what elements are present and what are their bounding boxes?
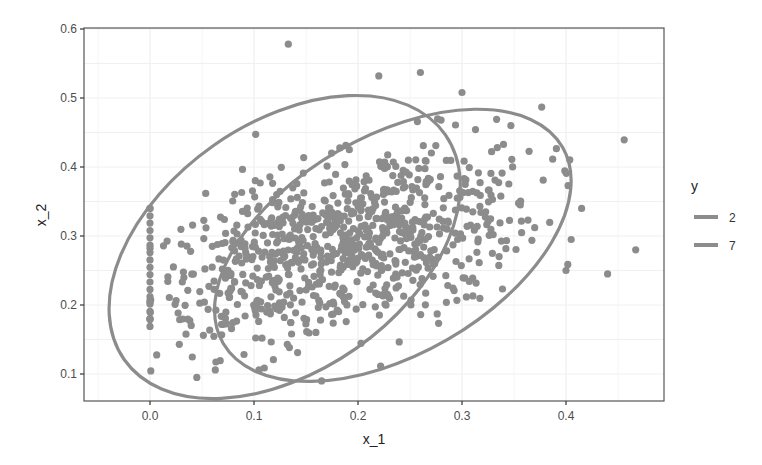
data-point [146, 271, 153, 278]
data-point [266, 173, 273, 180]
data-point [416, 189, 423, 196]
data-point [438, 117, 445, 124]
data-point [258, 278, 265, 285]
data-point [153, 351, 160, 358]
y-axis-title: x_2 [33, 204, 49, 227]
data-point [372, 303, 379, 310]
data-point [528, 237, 535, 244]
data-point [278, 164, 285, 171]
data-point [435, 320, 442, 327]
data-point [356, 214, 363, 221]
data-point [499, 285, 506, 292]
data-point [505, 180, 512, 187]
data-point [317, 317, 324, 324]
data-point [302, 320, 309, 327]
data-point [252, 177, 259, 184]
data-point [363, 172, 370, 179]
data-point [286, 282, 293, 289]
data-point [323, 218, 330, 225]
data-point [395, 282, 402, 289]
data-point [340, 224, 347, 231]
data-point [312, 329, 319, 336]
data-point [285, 246, 292, 253]
data-point [271, 264, 278, 271]
data-point [499, 170, 506, 177]
data-point [392, 204, 399, 211]
data-point [452, 121, 459, 128]
data-point [147, 367, 154, 374]
data-point [500, 141, 507, 148]
data-point [437, 173, 444, 180]
data-point [146, 256, 153, 263]
data-point [283, 291, 290, 298]
data-point [417, 69, 424, 76]
data-point [362, 255, 369, 262]
data-point [495, 262, 502, 269]
data-point [517, 201, 524, 208]
data-point [147, 309, 154, 316]
data-point [296, 221, 303, 228]
data-point [334, 200, 341, 207]
data-point [380, 187, 387, 194]
data-point [562, 267, 569, 274]
data-point [310, 233, 317, 240]
data-point [327, 229, 334, 236]
data-point [281, 235, 288, 242]
data-point [422, 158, 429, 165]
data-point [398, 172, 405, 179]
data-point [200, 332, 207, 339]
data-point [146, 245, 153, 252]
data-point [422, 301, 429, 308]
data-point [409, 277, 416, 284]
data-point [408, 194, 415, 201]
data-point [518, 229, 525, 236]
data-point [434, 223, 441, 230]
data-point [412, 156, 419, 163]
data-point [328, 269, 335, 276]
data-point [417, 311, 424, 318]
data-point [400, 184, 407, 191]
data-point [369, 222, 376, 229]
data-point [434, 310, 441, 317]
data-point [476, 259, 483, 266]
data-point [369, 257, 376, 264]
data-point [389, 172, 396, 179]
data-point [401, 220, 408, 227]
data-point [240, 351, 247, 358]
data-point [252, 229, 259, 236]
data-point [182, 331, 189, 338]
data-point [205, 306, 212, 313]
data-point [264, 239, 271, 246]
data-point [458, 89, 465, 96]
data-point [405, 157, 412, 164]
y-tick-label: 0.6 [60, 22, 77, 36]
x-tick-label: 0.2 [350, 409, 367, 423]
data-point [281, 314, 288, 321]
data-point [632, 246, 639, 253]
data-point [324, 163, 331, 170]
data-point [234, 301, 241, 308]
data-point [421, 221, 428, 228]
data-point [564, 261, 571, 268]
data-point [200, 217, 207, 224]
data-point [405, 247, 412, 254]
data-point [373, 194, 380, 201]
data-point [314, 215, 321, 222]
data-point [201, 265, 208, 272]
legend-title: y [691, 178, 698, 194]
data-point [353, 306, 360, 313]
data-point [251, 239, 258, 246]
scatter-chart: 0.00.10.20.30.4 0.10.20.30.40.50.6 x_1 x… [0, 0, 762, 465]
data-point [295, 238, 302, 245]
data-point [258, 335, 265, 342]
y-tick-label: 0.1 [60, 367, 77, 381]
data-point [350, 209, 357, 216]
data-point [249, 273, 256, 280]
data-point [305, 279, 312, 286]
data-point [444, 282, 451, 289]
data-point [268, 338, 275, 345]
data-point [509, 163, 516, 170]
data-point [421, 194, 428, 201]
data-point [540, 177, 547, 184]
data-point [146, 212, 153, 219]
